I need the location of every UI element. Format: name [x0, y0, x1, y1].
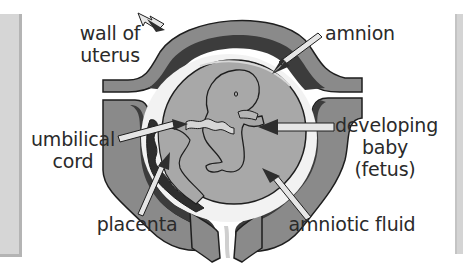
label-line: (fetus) [335, 158, 435, 180]
label-umbilical-cord: umbilical cord [28, 128, 118, 172]
label-amnion: amnion [325, 22, 405, 44]
cervical-canal [224, 226, 230, 258]
label-line: placenta [92, 213, 182, 235]
label-placenta: placenta [92, 213, 182, 235]
label-wall-of-uterus: wall of uterus [70, 22, 150, 66]
label-developing-baby: developing baby (fetus) [335, 114, 435, 180]
label-line: umbilical [28, 128, 118, 150]
label-line: uterus [70, 44, 150, 66]
label-line: amnion [325, 22, 405, 44]
label-line: wall of [70, 22, 150, 44]
label-line: baby [335, 136, 435, 158]
label-line: cord [28, 150, 118, 172]
label-line: amniotic fluid [282, 213, 422, 235]
label-line: developing [335, 114, 435, 136]
label-amniotic-fluid: amniotic fluid [282, 213, 422, 235]
